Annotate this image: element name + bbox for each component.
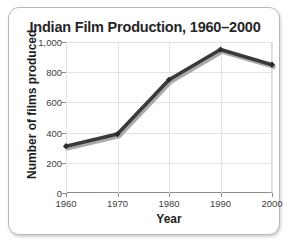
- x-axis-tick-mark: [272, 193, 273, 197]
- line-series: [66, 42, 272, 193]
- x-axis-label: Year: [66, 212, 272, 226]
- chart-title: Indian Film Production, 1960–2000: [9, 19, 281, 35]
- y-axis-tick-label: 400: [46, 127, 62, 138]
- x-axis-tick-labels: 19601970198019902000: [66, 198, 272, 212]
- line-shadow: [68, 52, 274, 149]
- x-axis-tick-label: 1980: [158, 198, 179, 209]
- x-axis-tick-mark: [169, 193, 170, 197]
- x-axis-tick-mark: [66, 193, 67, 197]
- plot-area: [66, 42, 272, 193]
- x-axis-tick-label: 1960: [55, 198, 76, 209]
- y-axis-tick-label: 1,000: [38, 37, 62, 48]
- x-axis-tick-mark: [118, 193, 119, 197]
- data-line: [66, 50, 272, 147]
- y-axis-tick-label: 800: [46, 67, 62, 78]
- x-axis-tick-label: 1990: [210, 198, 231, 209]
- x-axis-tick-mark: [221, 193, 222, 197]
- x-axis-tick-label: 1970: [107, 198, 128, 209]
- y-axis-tick-labels: 02004006008001,000: [23, 42, 62, 193]
- x-axis-tick-label: 2000: [261, 198, 282, 209]
- chart-card: Indian Film Production, 1960–2000 Number…: [8, 7, 280, 235]
- y-axis-tick-label: 200: [46, 157, 62, 168]
- y-axis-tick-label: 600: [46, 97, 62, 108]
